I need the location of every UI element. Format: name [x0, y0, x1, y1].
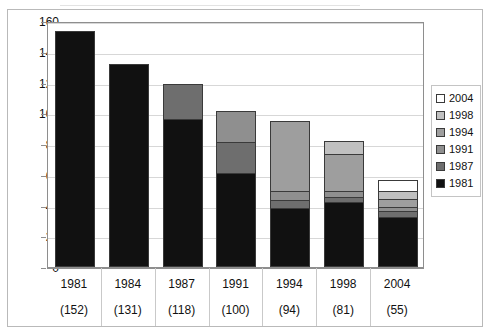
bar-segment-1981[interactable]: [164, 120, 202, 266]
bar-slot: [263, 23, 317, 267]
bar-segment-1987[interactable]: [217, 143, 255, 174]
legend-item-1991[interactable]: 1991: [436, 141, 477, 158]
bar-slot: [48, 23, 102, 267]
legend-swatch-icon: [436, 179, 445, 188]
bar-segment-1991[interactable]: [217, 112, 255, 143]
bar-slot: [317, 23, 371, 267]
bar-slot: [210, 23, 264, 267]
legend-label: 1987: [449, 161, 473, 172]
legend-swatch-icon: [436, 128, 445, 137]
plot-area: [47, 22, 424, 268]
legend-label: 1998: [449, 110, 473, 121]
x-axis-label: 1998: [316, 274, 370, 294]
cropped-rule: [60, 5, 360, 6]
bar-slot: [371, 23, 425, 267]
x-axis-label: 1987: [155, 274, 209, 294]
x-axis-label: 2004: [370, 274, 424, 294]
y-axis-tick-mark: [41, 207, 46, 208]
bar-segment-1987[interactable]: [164, 85, 202, 120]
stacked-bar[interactable]: [163, 84, 203, 267]
y-axis-tick-mark: [41, 53, 46, 54]
y-axis-tick-mark: [41, 114, 46, 115]
x-axis-total-label: (152): [47, 300, 101, 320]
bar-segment-1981[interactable]: [56, 32, 94, 266]
bar-segment-1981[interactable]: [217, 174, 255, 266]
x-axis-total-label: (55): [370, 300, 424, 320]
stacked-bar[interactable]: [55, 31, 95, 267]
bar-segment-1981[interactable]: [325, 203, 363, 266]
x-axis-label: 1994: [262, 274, 316, 294]
stacked-bar[interactable]: [216, 111, 256, 267]
x-axis-total-label: (81): [316, 300, 370, 320]
bar-slot: [156, 23, 210, 267]
legend-label: 2004: [449, 93, 473, 104]
legend-swatch-icon: [436, 94, 445, 103]
x-axis-label: 1991: [209, 274, 263, 294]
bar-segment-1994[interactable]: [379, 200, 417, 208]
x-axis-total-label: (100): [209, 300, 263, 320]
chart-root: 020406080100120140160 198119841987199119…: [0, 0, 491, 336]
y-axis-tick-mark: [41, 268, 46, 269]
bar-segment-1998[interactable]: [325, 142, 363, 156]
legend-item-2004[interactable]: 2004: [436, 90, 477, 107]
bar-segment-1994[interactable]: [271, 122, 309, 193]
y-axis-tick-mark: [41, 176, 46, 177]
bar-segment-1981[interactable]: [379, 218, 417, 266]
stacked-bar[interactable]: [109, 64, 149, 267]
bar-segment-1998[interactable]: [379, 192, 417, 200]
x-axis-total-label: (118): [155, 300, 209, 320]
bar-slot: [102, 23, 156, 267]
legend-label: 1991: [449, 144, 473, 155]
stacked-bar[interactable]: [378, 180, 418, 267]
x-axis-label: 1981: [47, 274, 101, 294]
bar-group: [48, 23, 423, 267]
bar-segment-1991[interactable]: [271, 192, 309, 201]
legend-swatch-icon: [436, 162, 445, 171]
legend-item-1994[interactable]: 1994: [436, 124, 477, 141]
legend-item-1987[interactable]: 1987: [436, 158, 477, 175]
y-axis-tick-mark: [41, 84, 46, 85]
legend-item-1981[interactable]: 1981: [436, 175, 477, 192]
bar-segment-1981[interactable]: [271, 209, 309, 266]
legend-swatch-icon: [436, 145, 445, 154]
x-axis-line: [47, 268, 424, 269]
stacked-bar[interactable]: [270, 121, 310, 268]
legend: 200419981994199119871981: [431, 85, 481, 197]
y-axis-tick-mark: [41, 237, 46, 238]
legend-label: 1981: [449, 178, 473, 189]
legend-swatch-icon: [436, 111, 445, 120]
y-axis-tick-mark: [41, 22, 46, 23]
bar-segment-1987[interactable]: [271, 201, 309, 209]
legend-item-1998[interactable]: 1998: [436, 107, 477, 124]
x-axis-total-label: (94): [262, 300, 316, 320]
x-axis-label: 1984: [101, 274, 155, 294]
legend-label: 1994: [449, 127, 473, 138]
stacked-bar[interactable]: [324, 141, 364, 268]
bar-segment-1981[interactable]: [110, 65, 148, 266]
bar-segment-2004[interactable]: [379, 181, 417, 192]
bar-segment-1994[interactable]: [325, 155, 363, 192]
y-axis-tick-mark: [41, 145, 46, 146]
x-axis-total-label: (131): [101, 300, 155, 320]
